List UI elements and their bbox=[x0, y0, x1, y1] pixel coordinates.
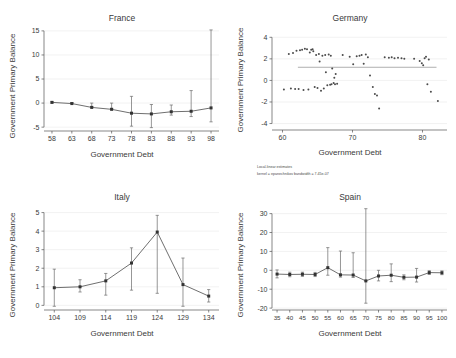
data-point-marker bbox=[190, 110, 193, 113]
scatter-point bbox=[314, 86, 316, 88]
scatter-point bbox=[288, 53, 290, 55]
y-tick-label: 15 bbox=[32, 27, 40, 34]
spain-plot-area: -20-100102030354045505560657075808590951… bbox=[257, 209, 447, 321]
y-tick-label: 30 bbox=[260, 210, 268, 217]
scatter-point bbox=[378, 107, 380, 109]
scatter-point bbox=[324, 54, 326, 56]
scatter-point bbox=[299, 49, 301, 51]
data-point-marker bbox=[181, 283, 184, 286]
data-point-marker bbox=[428, 271, 431, 274]
x-tick-label: 104 bbox=[48, 314, 60, 321]
scatter-point bbox=[374, 93, 376, 95]
y-tick-label: 3 bbox=[36, 246, 40, 253]
y-tick-label: 20 bbox=[260, 229, 268, 236]
scatter-point bbox=[413, 58, 415, 60]
scatter-point bbox=[372, 86, 374, 88]
scatter-point bbox=[419, 60, 421, 62]
scatter-point bbox=[292, 52, 294, 54]
data-point-marker bbox=[207, 295, 210, 298]
scatter-point bbox=[290, 88, 292, 90]
y-tick-label: 0 bbox=[36, 99, 40, 106]
figure-grid: France Government Primary Balance Govern… bbox=[0, 0, 456, 358]
panel-italy: Italy Government Primary Balance Governm… bbox=[0, 179, 228, 358]
x-tick-label: 93 bbox=[187, 135, 195, 142]
x-tick-label: 124 bbox=[151, 314, 163, 321]
x-tick-label: 134 bbox=[203, 314, 215, 321]
y-tick-label: 0 bbox=[264, 77, 268, 84]
spain-chart: Spain Government Primary Balance Governm… bbox=[228, 179, 456, 358]
scatter-point bbox=[294, 88, 296, 90]
panel-france: France Government Primary Balance Govern… bbox=[0, 0, 228, 179]
x-tick-label: 65 bbox=[350, 314, 357, 321]
data-point-marker bbox=[288, 273, 291, 276]
y-tick-label: 4 bbox=[264, 34, 268, 41]
data-point-marker bbox=[170, 110, 173, 113]
x-tick-label: 68 bbox=[88, 135, 96, 142]
germany-chart: Germany Government Primary Balance Gover… bbox=[228, 0, 456, 179]
scatter-point bbox=[283, 89, 285, 91]
x-tick-label: 60 bbox=[337, 314, 344, 321]
data-point-marker bbox=[440, 271, 443, 274]
x-tick-label: 58 bbox=[48, 135, 56, 142]
x-tick-label: 109 bbox=[74, 314, 86, 321]
data-point-marker bbox=[352, 274, 355, 277]
scatter-point bbox=[323, 88, 325, 90]
scatter-point bbox=[331, 83, 333, 85]
scatter-point bbox=[331, 68, 333, 70]
scatter-point bbox=[315, 54, 317, 56]
x-tick-label: 83 bbox=[147, 135, 155, 142]
x-tick-label: 80 bbox=[388, 314, 395, 321]
x-tick-label: 75 bbox=[375, 314, 382, 321]
panel-germany: Germany Government Primary Balance Gover… bbox=[228, 0, 456, 179]
scatter-point bbox=[367, 56, 369, 58]
france-title: France bbox=[109, 13, 136, 23]
scatter-point bbox=[321, 55, 323, 57]
data-point-marker bbox=[79, 285, 82, 288]
data-point-marker bbox=[402, 276, 405, 279]
scatter-point bbox=[394, 57, 396, 59]
y-tick-label: -20 bbox=[257, 305, 267, 312]
data-point-marker bbox=[70, 102, 73, 105]
x-tick-label: 119 bbox=[126, 314, 137, 321]
scatter-point bbox=[361, 54, 363, 56]
y-tick-label: 2 bbox=[264, 55, 268, 62]
scatter-point bbox=[328, 54, 330, 56]
x-tick-label: 40 bbox=[286, 314, 293, 321]
data-point-marker bbox=[339, 273, 342, 276]
italy-chart: Italy Government Primary Balance Governm… bbox=[0, 179, 228, 358]
scatter-point bbox=[309, 51, 311, 53]
x-tick-label: 50 bbox=[312, 314, 319, 321]
scatter-point bbox=[369, 75, 371, 77]
data-point-marker bbox=[364, 279, 367, 282]
scatter-point bbox=[336, 83, 338, 85]
data-point-marker bbox=[415, 276, 418, 279]
data-point-marker bbox=[53, 286, 56, 289]
y-tick-label: -10 bbox=[257, 286, 267, 293]
scatter-point bbox=[424, 57, 426, 59]
data-point-marker bbox=[104, 279, 107, 282]
scatter-point bbox=[363, 63, 365, 65]
y-tick-label: 5 bbox=[36, 209, 40, 216]
scatter-point bbox=[301, 49, 303, 51]
scatter-point bbox=[304, 48, 306, 50]
scatter-point bbox=[335, 73, 337, 75]
x-tick-label: 114 bbox=[100, 314, 111, 321]
scatter-point bbox=[317, 87, 319, 89]
x-tick-label: 70 bbox=[362, 314, 369, 321]
scatter-point bbox=[376, 95, 378, 97]
spain-xlabel: Government Debt bbox=[318, 329, 382, 338]
y-tick-label: -5 bbox=[33, 124, 39, 131]
scatter-point bbox=[326, 84, 328, 86]
spain-title: Spain bbox=[339, 192, 361, 202]
scatter-point bbox=[430, 91, 432, 93]
y-tick-label: -4 bbox=[261, 120, 267, 127]
x-tick-label: 63 bbox=[68, 135, 76, 142]
data-point-marker bbox=[276, 273, 279, 276]
france-xlabel: Government Debt bbox=[90, 150, 154, 159]
data-point-marker bbox=[130, 262, 133, 265]
scatter-point bbox=[403, 58, 405, 60]
x-tick-label: 129 bbox=[177, 314, 189, 321]
y-tick-label: 10 bbox=[260, 248, 268, 255]
data-point-marker bbox=[156, 231, 159, 234]
scatter-point bbox=[312, 50, 314, 52]
